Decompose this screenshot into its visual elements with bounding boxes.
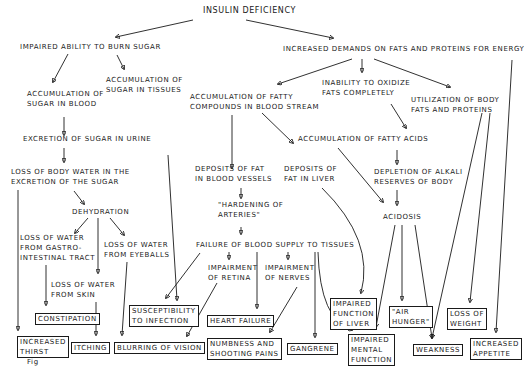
outcome-impaired-mental-function: IMPAIRED MENTAL FUNCTION: [348, 334, 395, 366]
outcome-impaired-liver-function: IMPAIRED FUNCTION OF LIVER: [330, 298, 377, 330]
root-insulin-deficiency: INSULIN DEFICIENCY: [203, 6, 296, 16]
outcome-blurring-vision: BLURRING OF VISION: [114, 342, 205, 354]
node-acidosis: ACIDOSIS: [383, 212, 421, 222]
node-loss-body-water: LOSS OF BODY WATER IN THE EXCRETION OF T…: [11, 167, 130, 187]
node-inability-oxidize: INABILITY TO OXIDIZE FATS COMPLETELY: [322, 78, 410, 98]
outcome-weakness: WEAKNESS: [413, 344, 463, 356]
outcome-gangrene: GANGRENE: [287, 343, 338, 355]
outcome-susceptibility-infection: SUSCEPTIBILITY TO INFECTION: [129, 305, 199, 327]
node-sugar-in-tissues: ACCUMULATION OF SUGAR IN TISSUES: [106, 75, 183, 95]
node-impaired-ability-burn-sugar: IMPAIRED ABILITY TO BURN SUGAR: [20, 42, 161, 52]
node-sugar-in-blood: ACCUMULATION OF SUGAR IN BLOOD: [27, 89, 104, 109]
node-loss-water-gi: LOSS OF WATER FROM GASTRO- INTESTINAL TR…: [20, 233, 95, 263]
node-increased-demands: INCREASED DEMANDS ON FATS AND PROTEINS F…: [283, 44, 524, 54]
node-utilization-body-fats: UTILIZATION OF BODY FATS AND PROTEINS: [411, 95, 499, 115]
outcome-heart-failure: HEART FAILURE: [207, 315, 274, 327]
node-loss-water-eyeballs: LOSS OF WATER FROM EYEBALLS: [104, 240, 169, 260]
outcome-numbness-shooting-pains: NUMBNESS AND SHOOTING PAINS: [207, 338, 282, 360]
node-deposits-blood-vessels: DEPOSITS OF FAT IN BLOOD VESSELS: [195, 164, 272, 184]
outcome-constipation: CONSTIPATION: [35, 313, 100, 325]
outcome-itching: ITCHING: [71, 342, 110, 354]
node-depletion-alkali: DEPLETION OF ALKALI RESERVES OF BODY: [374, 167, 463, 187]
outcome-increased-thirst: INCREASED THIRST: [17, 336, 69, 358]
node-failure-blood-supply: FAILURE OF BLOOD SUPPLY TO TISSUES: [196, 240, 354, 250]
node-excretion-urine: EXCRETION OF SUGAR IN URINE: [23, 134, 151, 144]
node-loss-water-skin: LOSS OF WATER FROM SKIN: [51, 280, 115, 300]
node-fatty-acids: ACCUMULATION OF FATTY ACIDS: [298, 134, 428, 144]
node-dehydration: DEHYDRATION: [72, 207, 129, 217]
figure-caption: Fig: [27, 357, 39, 367]
outcome-loss-of-weight: LOSS OF WEIGHT: [447, 308, 487, 330]
outcome-increased-appetite: INCREASED APPETITE: [470, 338, 522, 360]
node-deposits-liver: DEPOSITS OF FAT IN LIVER: [284, 164, 337, 184]
outcome-air-hunger: "AIR HUNGER": [389, 306, 433, 328]
node-impairment-retina: IMPAIRMENT OF RETINA: [208, 263, 258, 283]
node-fatty-compounds: ACCUMULATION OF FATTY COMPOUNDS IN BLOOD…: [190, 92, 319, 112]
node-hardening-arteries: "HARDENING OF ARTERIES": [218, 200, 283, 220]
node-impairment-nerves: IMPAIRMENT OF NERVES: [265, 263, 315, 283]
